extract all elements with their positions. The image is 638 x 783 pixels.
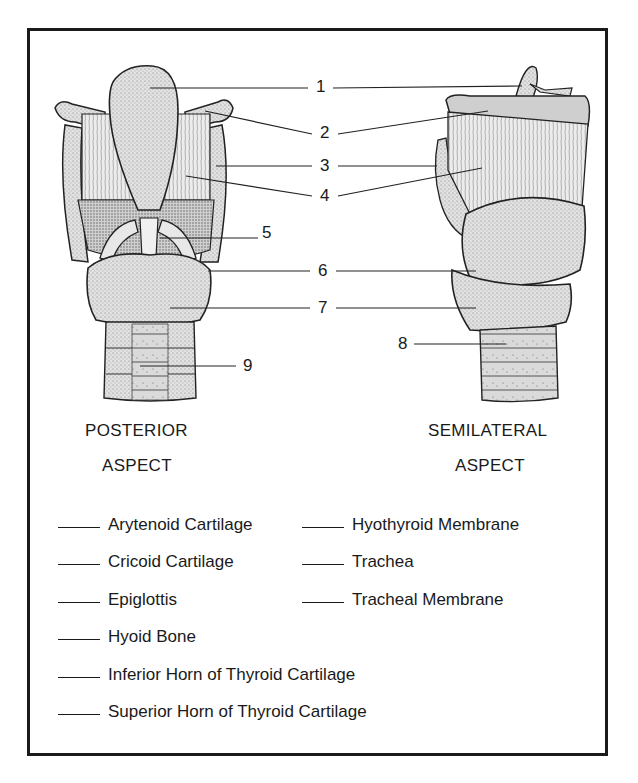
posterior-larynx-drawing	[55, 66, 233, 401]
callout-number-5: 5	[262, 224, 271, 241]
term-item: Hyothyroid Membrane	[302, 515, 519, 535]
term-label: Epiglottis	[108, 590, 177, 609]
answer-blank[interactable]	[58, 602, 100, 603]
callout-number-9: 9	[243, 357, 252, 374]
callout-number-7: 7	[318, 299, 327, 316]
answer-blank[interactable]	[302, 564, 344, 565]
term-label: Inferior Horn of Thyroid Cartilage	[108, 665, 355, 684]
callout-number-1: 1	[316, 78, 325, 95]
term-item: Trachea	[302, 552, 414, 572]
semilateral-larynx-drawing	[435, 67, 589, 402]
term-item: Arytenoid Cartilage	[58, 515, 253, 535]
term-label: Trachea	[352, 552, 414, 571]
term-item: Superior Horn of Thyroid Cartilage	[58, 702, 367, 722]
term-label: Superior Horn of Thyroid Cartilage	[108, 702, 367, 721]
callout-number-8: 8	[398, 335, 407, 352]
callout-number-6: 6	[318, 262, 327, 279]
posterior-caption-line2: ASPECT	[102, 456, 172, 476]
term-label: Hyoid Bone	[108, 627, 196, 646]
answer-blank[interactable]	[302, 527, 344, 528]
answer-blank[interactable]	[58, 564, 100, 565]
posterior-caption-line1: POSTERIOR	[85, 421, 188, 441]
term-label: Tracheal Membrane	[352, 590, 504, 609]
answer-blank[interactable]	[302, 602, 344, 603]
callout-number-4: 4	[320, 187, 329, 204]
term-label: Cricoid Cartilage	[108, 552, 234, 571]
term-item: Cricoid Cartilage	[58, 552, 234, 572]
callout-number-3: 3	[320, 157, 329, 174]
semilateral-caption-line1: SEMILATERAL	[428, 421, 547, 441]
answer-blank[interactable]	[58, 527, 100, 528]
term-item: Hyoid Bone	[58, 627, 196, 647]
semilateral-caption-line2: ASPECT	[455, 456, 525, 476]
term-item: Inferior Horn of Thyroid Cartilage	[58, 665, 355, 685]
answer-blank[interactable]	[58, 639, 100, 640]
term-label: Arytenoid Cartilage	[108, 515, 253, 534]
answer-blank[interactable]	[58, 677, 100, 678]
term-item: Epiglottis	[58, 590, 177, 610]
term-label: Hyothyroid Membrane	[352, 515, 519, 534]
callout-number-2: 2	[320, 124, 329, 141]
answer-blank[interactable]	[58, 714, 100, 715]
term-item: Tracheal Membrane	[302, 590, 504, 610]
